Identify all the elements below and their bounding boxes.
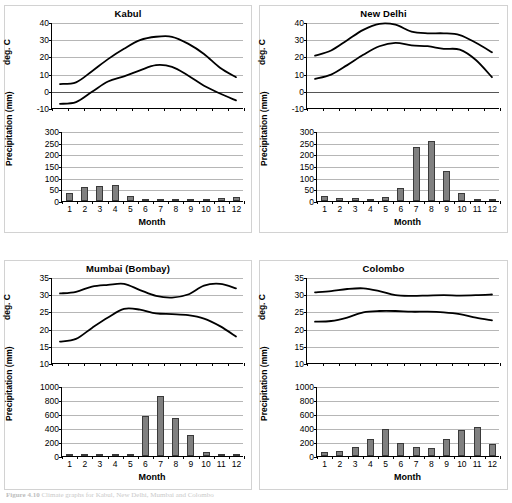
- x-axis-tick-label: 9: [189, 204, 194, 214]
- x-axis-tick-label: 10: [457, 204, 466, 214]
- bar: [112, 185, 119, 201]
- x-axis-tick-mark: [332, 456, 333, 459]
- x-axis-tick-mark: [424, 201, 425, 204]
- month-axis-title: Month: [316, 472, 499, 482]
- plot-area: 02004006008001000123456789101112: [61, 387, 243, 457]
- x-axis-tick-mark: [500, 201, 501, 204]
- x-axis-tick-label: 8: [429, 459, 434, 469]
- y-axis-tick-label: 25: [295, 307, 304, 317]
- y-axis-tick-label: 20: [295, 325, 304, 335]
- y-axis-tick-label: 1000: [40, 382, 59, 392]
- x-axis-tick-label: 7: [158, 459, 163, 469]
- month-axis-title: Month: [61, 472, 243, 482]
- y-axis-tick-mark: [59, 190, 62, 191]
- y-axis-tick-label: 800: [300, 396, 314, 406]
- x-axis-tick-label: 11: [473, 204, 482, 214]
- gridline: [317, 167, 499, 168]
- x-axis-tick-label: 5: [128, 204, 133, 214]
- y-axis-tick-label: 20: [40, 52, 49, 62]
- min-temperature-line: [60, 65, 236, 104]
- y-axis-tick-label: 300: [300, 127, 314, 137]
- bar: [96, 186, 103, 201]
- x-axis-tick-label: 9: [444, 459, 449, 469]
- x-axis-tick-mark: [153, 456, 154, 459]
- y-axis-tick-mark: [314, 415, 317, 416]
- plot-area: 101520253035: [306, 278, 499, 364]
- x-axis-tick-mark: [485, 201, 486, 204]
- x-axis-tick-label: 6: [399, 204, 404, 214]
- gridline: [317, 387, 499, 388]
- y-axis-tick-label: 300: [45, 127, 59, 137]
- gridline: [62, 179, 243, 180]
- figure-page: Kabuldeg. C-10010203040 Precipitation (m…: [0, 0, 512, 503]
- x-axis-tick-label: 2: [338, 204, 343, 214]
- bar: [112, 454, 119, 456]
- x-axis-tick-mark: [393, 456, 394, 459]
- y-axis-tick-label: 30: [295, 35, 304, 45]
- x-axis-tick-mark: [317, 201, 318, 204]
- x-axis-tick-label: 6: [399, 459, 404, 469]
- plot-area: -10010203040: [51, 23, 243, 109]
- y-axis-tick-mark: [314, 155, 317, 156]
- bar: [489, 444, 496, 456]
- y-axis-tick-label: 25: [40, 307, 49, 317]
- x-axis-tick-mark: [500, 108, 501, 111]
- climate-panel-mumbai: Mumbai (Bombay)deg. C101520253035 Precip…: [4, 260, 252, 490]
- x-axis-tick-label: 1: [67, 459, 72, 469]
- precipitation-chart-new-delhi: Precipitation (mm)0501001502002503001234…: [260, 120, 507, 232]
- y-axis-tick-label: 600: [45, 410, 59, 420]
- x-axis-tick-mark: [123, 201, 124, 204]
- x-axis-tick-label: 4: [368, 204, 373, 214]
- x-axis-tick-label: 10: [457, 459, 466, 469]
- bar: [458, 430, 465, 456]
- y-axis-tick-label: 20: [40, 325, 49, 335]
- y-axis-tick-mark: [59, 167, 62, 168]
- gridline: [62, 132, 243, 133]
- x-axis-tick-label: 10: [201, 204, 210, 214]
- temperature-lines: [52, 23, 244, 109]
- bar: [187, 435, 194, 456]
- y-axis-tick-label: 30: [40, 35, 49, 45]
- bar: [458, 193, 465, 201]
- x-axis-tick-label: 11: [217, 459, 226, 469]
- x-axis-tick-label: 11: [217, 204, 226, 214]
- x-axis-tick-label: 12: [488, 459, 497, 469]
- x-axis-tick-mark: [393, 201, 394, 204]
- x-axis-tick-mark: [199, 201, 200, 204]
- bar: [443, 439, 450, 456]
- x-axis-tick-label: 12: [232, 204, 241, 214]
- x-axis-tick-label: 4: [113, 204, 118, 214]
- figure-caption-label: Figure 4.10: [6, 491, 40, 499]
- y-axis-tick-mark: [59, 387, 62, 388]
- y-axis-tick-label: 40: [295, 18, 304, 28]
- x-axis-tick-mark: [153, 201, 154, 204]
- x-axis-tick-mark: [92, 456, 93, 459]
- plot-area: 050100150200250300123456789101112: [316, 132, 499, 202]
- x-axis-tick-mark: [62, 456, 63, 459]
- x-axis-tick-mark: [363, 456, 364, 459]
- gridline: [317, 155, 499, 156]
- bar: [187, 199, 194, 201]
- y-axis-tick-mark: [59, 429, 62, 430]
- y-axis-tick-label: 200: [300, 150, 314, 160]
- y-axis-tick-label: 100: [300, 174, 314, 184]
- x-axis-tick-label: 3: [353, 459, 358, 469]
- x-axis-tick-mark: [183, 201, 184, 204]
- min-temperature-line: [60, 308, 236, 341]
- y-axis-tick-mark: [314, 167, 317, 168]
- max-temperature-line: [60, 284, 236, 298]
- gridline: [62, 415, 243, 416]
- bar: [443, 171, 450, 201]
- x-axis-tick-mark: [77, 201, 78, 204]
- plot-area: 101520253035: [51, 278, 243, 364]
- x-axis-tick-mark: [378, 456, 379, 459]
- bar: [428, 141, 435, 201]
- x-axis-tick-mark: [454, 201, 455, 204]
- x-axis-tick-mark: [470, 201, 471, 204]
- temperature-chart-new-delhi: New Delhideg. C-10010203040: [260, 6, 507, 120]
- y-axis-tick-label: -10: [292, 104, 304, 114]
- x-axis-tick-mark: [108, 456, 109, 459]
- max-temperature-line: [315, 288, 492, 296]
- bar: [474, 427, 481, 456]
- bar: [321, 196, 328, 201]
